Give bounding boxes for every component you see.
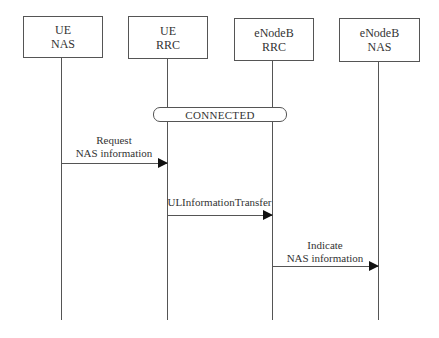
- state-connected: CONNECTED: [153, 107, 287, 122]
- participant-ue-rrc: UE RRC: [128, 16, 208, 59]
- message-arrow-indicate-nas-info: [272, 266, 378, 267]
- message-label-line1: Request: [61, 134, 167, 147]
- participant-label-line1: eNodeB: [254, 26, 293, 40]
- participant-label-line1: UE: [160, 24, 176, 38]
- state-label: CONNECTED: [185, 109, 254, 121]
- participant-enodeb-nas: eNodeB NAS: [339, 18, 420, 62]
- message-label-line1: ULInformationTransfer: [167, 196, 272, 209]
- message-label-line2: NAS information: [272, 252, 378, 265]
- arrowhead-icon: [158, 158, 168, 168]
- message-label-line2: NAS information: [61, 147, 167, 160]
- participant-label-line2: RRC: [262, 40, 286, 54]
- message-label: ULInformationTransfer: [167, 196, 272, 209]
- participant-label-line2: NAS: [367, 40, 391, 54]
- lifeline-enodeb-rrc: [272, 60, 273, 320]
- arrowhead-icon: [369, 261, 379, 271]
- lifeline-enodeb-nas: [378, 61, 379, 320]
- message-label-line1: Indicate: [272, 239, 378, 252]
- participant-label-line2: NAS: [51, 37, 75, 51]
- message-label: Indicate NAS information: [272, 239, 378, 265]
- participant-label-line2: RRC: [156, 38, 180, 52]
- arrowhead-icon: [263, 210, 273, 220]
- participant-enodeb-rrc: eNodeB RRC: [234, 18, 314, 61]
- participant-ue-nas: UE NAS: [23, 16, 103, 58]
- message-arrow-request-nas-info: [61, 163, 167, 164]
- lifeline-ue-nas: [61, 57, 62, 320]
- message-arrow-ulinformationtransfer: [167, 215, 272, 216]
- participant-label-line1: UE: [55, 23, 71, 37]
- lifeline-ue-rrc: [167, 58, 168, 320]
- participant-label-line1: eNodeB: [360, 26, 399, 40]
- message-label: Request NAS information: [61, 134, 167, 160]
